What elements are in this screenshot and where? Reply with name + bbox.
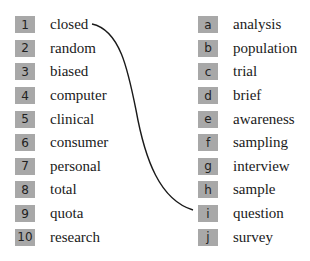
item-letter: f [198, 134, 218, 151]
item-number: 2 [15, 40, 35, 57]
item-word: interview [233, 158, 290, 175]
item-number: 3 [15, 63, 35, 80]
item-word: total [50, 181, 77, 198]
item-word: biased [50, 63, 88, 80]
item-word: sampling [233, 134, 288, 151]
right-item[interactable]: ctrial [198, 60, 297, 84]
item-number: 5 [15, 111, 35, 128]
item-number: 9 [15, 205, 35, 222]
item-word: question [233, 205, 284, 222]
item-word: random [50, 40, 96, 57]
item-word: computer [50, 87, 107, 104]
right-item[interactable]: jsurvey [198, 225, 297, 249]
right-item[interactable]: aanalysis [198, 13, 297, 37]
left-item[interactable]: 8total [15, 178, 108, 202]
right-item[interactable]: eawareness [198, 107, 297, 131]
right-item[interactable]: ginterview [198, 155, 297, 179]
item-number: 7 [15, 158, 35, 175]
right-column: aanalysis bpopulation ctrial dbrief eawa… [198, 13, 297, 249]
item-word: analysis [233, 16, 281, 33]
right-item[interactable]: bpopulation [198, 37, 297, 61]
item-number: 1 [15, 16, 35, 33]
item-letter: e [198, 111, 218, 128]
item-word: brief [233, 87, 261, 104]
item-word: clinical [50, 111, 94, 128]
left-item[interactable]: 3biased [15, 60, 108, 84]
item-number: 8 [15, 181, 35, 198]
item-letter: b [198, 40, 218, 57]
item-word: survey [233, 229, 273, 246]
item-letter: d [198, 87, 218, 104]
left-item[interactable]: 4computer [15, 84, 108, 108]
left-item[interactable]: 6consumer [15, 131, 108, 155]
right-item[interactable]: fsampling [198, 131, 297, 155]
item-letter: c [198, 63, 218, 80]
item-word: quota [50, 205, 83, 222]
left-item[interactable]: 10research [15, 225, 108, 249]
item-word: research [50, 229, 100, 246]
left-item[interactable]: 5clinical [15, 107, 108, 131]
item-letter: h [198, 181, 218, 198]
item-word: trial [233, 63, 257, 80]
right-item[interactable]: hsample [198, 178, 297, 202]
item-word: consumer [50, 134, 108, 151]
left-column: 1closed 2random 3biased 4computer 5clini… [15, 13, 108, 249]
item-number: 6 [15, 134, 35, 151]
item-number: 4 [15, 87, 35, 104]
item-letter: g [198, 158, 218, 175]
item-letter: j [198, 229, 218, 246]
item-word: closed [50, 16, 88, 33]
item-word: sample [233, 181, 276, 198]
item-letter: i [198, 205, 218, 222]
right-item[interactable]: dbrief [198, 84, 297, 108]
right-item[interactable]: iquestion [198, 202, 297, 226]
item-word: awareness [233, 111, 295, 128]
item-word: population [233, 40, 297, 57]
item-number: 10 [15, 229, 35, 246]
left-item[interactable]: 9quota [15, 202, 108, 226]
item-word: personal [50, 158, 101, 175]
left-item[interactable]: 7personal [15, 155, 108, 179]
left-item[interactable]: 1closed [15, 13, 108, 37]
left-item[interactable]: 2random [15, 37, 108, 61]
item-letter: a [198, 16, 218, 33]
